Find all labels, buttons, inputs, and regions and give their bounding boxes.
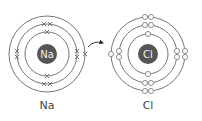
na-nucleus-symbol: Na (40, 49, 54, 60)
electron-transfer-arrow (88, 42, 103, 47)
chlorine-atom: Cl (108, 14, 187, 93)
sodium-atom: Na (9, 16, 87, 92)
cl-label: Cl (143, 99, 154, 112)
cl-nucleus-symbol: Cl (143, 49, 153, 60)
ionic-bond-diagram: Na Cl (0, 0, 202, 121)
na-label: Na (40, 99, 55, 112)
